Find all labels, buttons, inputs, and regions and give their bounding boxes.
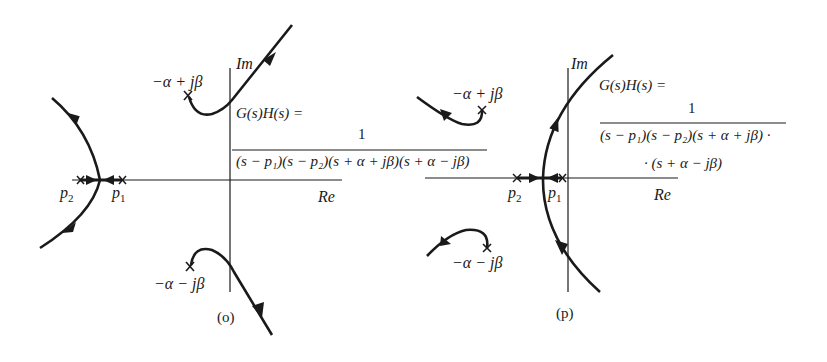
pole-p1-label: p1 xyxy=(548,185,562,204)
locus-branch-lower-complex xyxy=(427,230,487,256)
pole-p2-label: p2 xyxy=(508,185,522,204)
lower-complex-pole-label: −α − jβ xyxy=(154,276,204,292)
locus-branch-upper xyxy=(543,55,613,178)
arrow-icon xyxy=(66,111,80,125)
root-locus-figure xyxy=(0,0,827,362)
panel-caption-o: (o) xyxy=(217,310,235,325)
arrow-icon xyxy=(529,173,540,183)
panel-o xyxy=(40,25,487,335)
denominator-line-2: · (s + α − jβ) xyxy=(644,156,722,171)
numerator: 1 xyxy=(358,127,366,142)
imag-axis-label: Im xyxy=(236,56,253,72)
lower-complex-pole-label: −α − jβ xyxy=(452,255,502,271)
panel-caption-p: (p) xyxy=(556,306,574,321)
transfer-function-lhs: G(s)H(s) = xyxy=(599,78,666,93)
arrow-icon xyxy=(86,175,97,185)
numerator: 1 xyxy=(688,101,696,116)
pole-p1-label: p1 xyxy=(112,185,126,204)
pole-p2-label: p2 xyxy=(60,185,74,204)
upper-complex-pole-label: −α + jβ xyxy=(452,86,502,102)
transfer-function-lhs: G(s)H(s) = xyxy=(236,106,303,121)
arrow-icon xyxy=(547,173,558,183)
real-axis-label: Re xyxy=(654,187,671,203)
arrow-icon xyxy=(549,116,563,132)
denominator-line-1: (s − p₁)(s − p₂)(s + α + jβ) · xyxy=(600,128,770,143)
locus-branch-upper-left xyxy=(52,98,100,180)
real-axis-label: Re xyxy=(318,189,335,205)
denominator: (s − p₁)(s − p₂)(s + α + jβ)(s + α − jβ) xyxy=(236,154,470,169)
upper-complex-pole-label: −α + jβ xyxy=(152,74,202,90)
imag-axis-label: Im xyxy=(571,56,588,72)
